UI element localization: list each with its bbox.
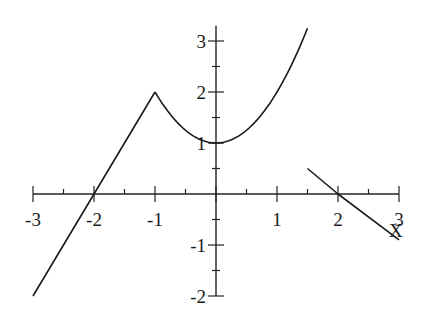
y-tick-label: 2 [197, 82, 207, 103]
x-tick-label: -3 [25, 209, 41, 230]
x-axis-label: X [389, 220, 403, 241]
function-graph: -3-2-1123-2-1123 X [0, 0, 423, 325]
x-tick-label: -2 [86, 209, 102, 230]
y-tick-label: 1 [197, 133, 207, 154]
y-tick-label: -2 [190, 286, 206, 307]
segment-parabola [155, 28, 308, 143]
segment-linear-right [308, 169, 400, 240]
x-tick-label: 2 [333, 209, 343, 230]
y-tick-label: 3 [197, 31, 207, 52]
x-tick-label: 1 [272, 209, 282, 230]
x-tick-label: -1 [147, 209, 163, 230]
y-tick-label: -1 [190, 235, 206, 256]
